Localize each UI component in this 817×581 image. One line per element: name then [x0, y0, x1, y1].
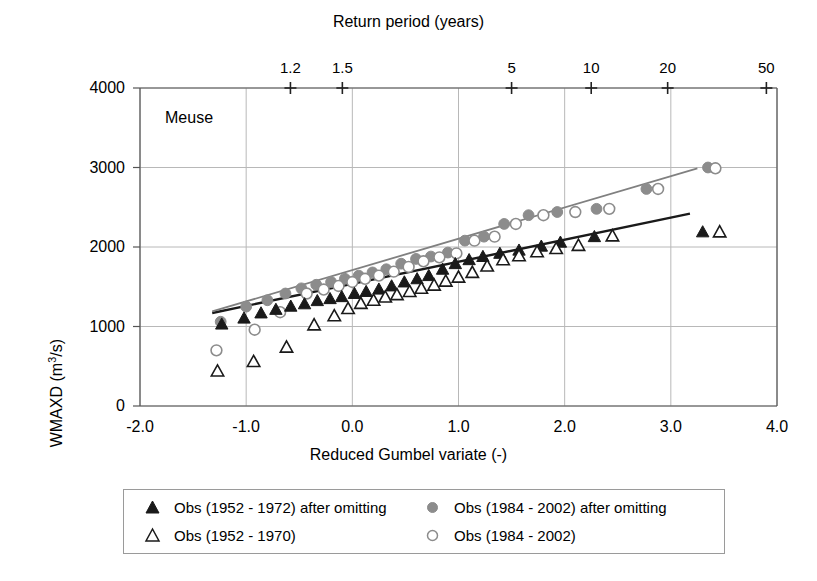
legend: Obs (1952 - 1972) after omitting Obs (19…	[123, 489, 725, 554]
data-point-filled-circle-10	[381, 264, 392, 275]
data-point-open-triangle-7	[367, 294, 379, 305]
data-point-filled-circle-1	[241, 301, 252, 312]
data-point-filled-triangle-10	[360, 285, 372, 296]
data-point-open-triangle-18	[513, 250, 525, 261]
y-axis-tick-4000: 4000	[45, 79, 125, 97]
data-point-open-triangle-2	[280, 341, 292, 352]
data-point-open-circle-11	[418, 256, 429, 267]
legend-row-1b: Obs (1984 - 2002) after omitting	[424, 494, 667, 521]
data-point-open-triangle-16	[481, 260, 493, 271]
data-point-open-circle-20	[653, 184, 664, 195]
y-axis-tick-2000: 2000	[45, 238, 125, 256]
legend-label-3: Obs (1984 - 2002)	[454, 527, 576, 544]
filled-circle-icon	[424, 499, 441, 516]
x-axis-tick-3.0: 3.0	[631, 418, 711, 436]
data-point-filled-circle-21	[641, 184, 652, 195]
x-axis-tick--2.0: -2.0	[100, 418, 180, 436]
data-point-filled-triangle-3	[270, 303, 282, 314]
data-point-filled-circle-2	[262, 295, 273, 306]
data-point-open-triangle-15	[466, 266, 478, 277]
data-point-filled-triangle-6	[311, 294, 323, 305]
x-axis-tick-2.0: 2.0	[525, 418, 605, 436]
data-point-filled-circle-9	[367, 267, 378, 278]
data-point-filled-triangle-0	[216, 318, 228, 329]
x-axis-tick-0.0: 0.0	[312, 418, 392, 436]
data-point-open-triangle-21	[572, 239, 584, 250]
top-axis-tick-1.5: 1.5	[312, 59, 372, 76]
data-point-open-triangle-19	[531, 246, 543, 257]
data-point-open-circle-18	[570, 207, 581, 218]
data-point-filled-triangle-7	[324, 292, 336, 303]
data-point-open-circle-5	[333, 281, 344, 292]
data-point-filled-circle-7	[340, 273, 351, 284]
data-point-filled-triangle-19	[477, 250, 489, 261]
data-point-open-triangle-5	[342, 302, 354, 313]
data-point-open-triangle-9	[391, 289, 403, 300]
data-point-open-circle-4	[318, 284, 329, 295]
data-point-open-triangle-8	[379, 291, 391, 302]
data-point-filled-triangle-14	[411, 273, 423, 284]
data-point-filled-triangle-11	[373, 283, 385, 294]
data-point-open-circle-1	[249, 324, 260, 335]
data-point-filled-circle-12	[411, 254, 422, 265]
plot-annotation-meuse: Meuse	[165, 110, 213, 126]
data-point-open-triangle-20	[550, 242, 562, 253]
legend-row-1: Obs (1952 - 1972) after omitting	[144, 494, 387, 521]
data-point-open-circle-8	[373, 270, 384, 281]
data-point-filled-circle-13	[425, 251, 436, 262]
filled-triangle-icon	[144, 499, 161, 516]
x-axis-tick--1.0: -1.0	[206, 418, 286, 436]
data-point-open-circle-19	[604, 203, 615, 214]
legend-item-1[interactable]: Obs (1984 - 2002) after omitting	[424, 499, 667, 516]
data-point-filled-circle-4	[296, 283, 307, 294]
legend-item-3[interactable]: Obs (1984 - 2002)	[424, 527, 576, 544]
top-axis-tick-20: 20	[638, 59, 698, 76]
data-point-filled-circle-8	[353, 270, 364, 281]
data-point-open-triangle-13	[440, 275, 452, 286]
data-point-open-triangle-6	[355, 297, 367, 308]
data-point-open-triangle-12	[428, 279, 440, 290]
data-point-open-circle-12	[434, 252, 445, 263]
data-point-open-circle-2	[275, 307, 286, 318]
data-point-open-circle-9	[388, 266, 399, 277]
data-point-open-circle-17	[538, 210, 549, 221]
data-point-filled-circle-5	[311, 279, 322, 290]
data-point-filled-triangle-18	[463, 254, 475, 265]
data-point-open-circle-15	[489, 231, 500, 242]
data-point-open-triangle-10	[403, 285, 415, 296]
top-axis-title: Return period (years)	[0, 14, 817, 30]
data-point-filled-triangle-15	[423, 269, 435, 280]
y-axis-title-suffix: /s)	[48, 339, 65, 357]
y-axis-tick-1000: 1000	[45, 318, 125, 336]
x-axis-tick-4.0: 4.0	[737, 418, 817, 436]
data-point-filled-triangle-12	[385, 280, 397, 291]
legend-item-2[interactable]: Obs (1952 - 1970)	[144, 527, 296, 544]
gumbel-plot-figure: Return period (years) 1.21.55102050 WMAX…	[0, 0, 817, 581]
data-point-filled-circle-14	[442, 247, 453, 258]
data-point-filled-triangle-25	[696, 226, 708, 237]
data-point-open-triangle-11	[415, 282, 427, 293]
data-point-open-circle-14	[469, 235, 480, 246]
data-point-open-circle-3	[301, 288, 312, 299]
data-point-open-triangle-23	[713, 226, 725, 237]
data-point-open-triangle-4	[328, 310, 340, 321]
trendline-1	[212, 168, 697, 311]
data-point-filled-circle-15	[459, 235, 470, 246]
data-point-open-circle-0	[211, 345, 222, 356]
data-point-filled-triangle-4	[285, 300, 297, 311]
data-point-open-circle-13	[451, 248, 462, 259]
legend-row-2b: Obs (1984 - 2002)	[424, 522, 576, 549]
data-point-open-triangle-3	[308, 319, 320, 330]
data-point-filled-triangle-17	[449, 257, 461, 268]
legend-item-0[interactable]: Obs (1952 - 1972) after omitting	[144, 499, 387, 516]
data-point-filled-triangle-20	[494, 247, 506, 258]
data-point-filled-triangle-22	[535, 240, 547, 251]
data-point-filled-circle-16	[479, 231, 490, 242]
data-point-filled-triangle-8	[336, 290, 348, 301]
top-axis-tick-50: 50	[736, 59, 796, 76]
data-point-filled-circle-22	[703, 162, 714, 173]
data-point-filled-triangle-21	[513, 244, 525, 255]
data-point-filled-circle-6	[326, 277, 337, 288]
data-point-filled-triangle-9	[348, 287, 360, 298]
legend-label-0: Obs (1952 - 1972) after omitting	[174, 499, 387, 516]
